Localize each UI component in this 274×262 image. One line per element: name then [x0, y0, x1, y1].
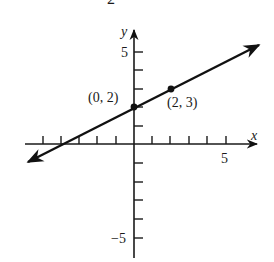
- y-tick-label-neg5: −5: [111, 231, 126, 246]
- point-label-2-3: (2, 3): [167, 95, 198, 111]
- point-0-2: [131, 104, 138, 111]
- y-axis-ticks: [134, 52, 143, 238]
- point-label-0-2: (0, 2): [88, 90, 119, 106]
- x-axis-label: x: [250, 128, 258, 143]
- y-axis-label: y: [119, 24, 128, 39]
- x-tick-label-5: 5: [221, 151, 228, 166]
- coordinate-plane: 2 x 5: [0, 0, 274, 262]
- y-tick-label-5: 5: [121, 45, 128, 60]
- point-2-3: [168, 86, 175, 93]
- top-text-fragment: 2: [107, 0, 115, 7]
